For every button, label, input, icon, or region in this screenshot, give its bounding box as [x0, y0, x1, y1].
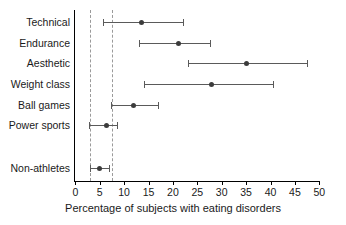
x-axis-tick-label: 35 — [240, 186, 252, 198]
x-axis-tick-label: 5 — [97, 186, 103, 198]
ci-lower-cap — [103, 19, 104, 26]
reference-line — [90, 10, 91, 181]
ci-upper-cap — [109, 165, 110, 172]
x-axis-tick-label: 45 — [289, 186, 301, 198]
data-point-marker — [131, 103, 136, 108]
ci-upper-cap — [273, 81, 274, 88]
x-axis-tick — [173, 181, 174, 185]
data-point-marker — [244, 61, 249, 66]
x-axis-tick — [149, 181, 150, 185]
ci-upper-cap — [158, 102, 159, 109]
ci-lower-cap — [188, 60, 189, 67]
x-axis-tick-label: 25 — [191, 186, 203, 198]
data-point-marker — [104, 123, 109, 128]
x-axis-tick-label: 30 — [216, 186, 228, 198]
x-axis-tick-label: 0 — [72, 186, 78, 198]
ci-lower-cap — [111, 102, 112, 109]
ci-lower-cap — [90, 165, 91, 172]
x-axis-tick-label: 10 — [118, 186, 130, 198]
category-label: Power sports — [9, 119, 70, 131]
x-axis-tick — [222, 181, 223, 185]
x-axis-tick — [75, 181, 76, 185]
reference-line — [112, 10, 113, 181]
ci-upper-cap — [307, 60, 308, 67]
x-axis-tick — [271, 181, 272, 185]
ci-upper-cap — [183, 19, 184, 26]
category-label: Non-athletes — [10, 162, 70, 174]
ci-lower-cap — [144, 81, 145, 88]
x-axis-tick — [295, 181, 296, 185]
ci-lower-cap — [89, 122, 90, 129]
x-axis-title: Percentage of subjects with eating disor… — [0, 202, 346, 214]
x-axis-tick-label: 15 — [143, 186, 155, 198]
x-axis-tick — [100, 181, 101, 185]
ci-lower-cap — [139, 40, 140, 47]
category-label: Technical — [26, 16, 70, 28]
category-axis-labels: TechnicalEnduranceAestheticWeight classB… — [0, 0, 70, 225]
data-point-marker — [209, 82, 214, 87]
data-point-marker — [176, 41, 181, 46]
x-axis-tick — [197, 181, 198, 185]
category-label: Weight class — [11, 78, 70, 90]
x-axis-tick — [246, 181, 247, 185]
category-label: Aesthetic — [27, 57, 70, 69]
ci-upper-cap — [210, 40, 211, 47]
x-axis-tick — [319, 181, 320, 185]
x-axis-tick — [124, 181, 125, 185]
x-axis-tick-label: 50 — [313, 186, 325, 198]
category-label: Endurance — [19, 37, 70, 49]
data-point-marker — [139, 20, 144, 25]
ci-upper-cap — [117, 122, 118, 129]
category-label: Ball games — [18, 99, 70, 111]
data-point-marker — [97, 166, 102, 171]
y-axis-line — [74, 10, 75, 182]
x-axis-tick-label: 20 — [167, 186, 179, 198]
x-axis-tick-label: 40 — [265, 186, 277, 198]
confidence-interval-bar — [139, 43, 210, 44]
eating-disorders-forest-plot: TechnicalEnduranceAestheticWeight classB… — [0, 0, 346, 225]
